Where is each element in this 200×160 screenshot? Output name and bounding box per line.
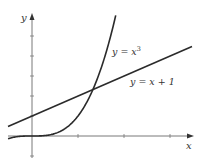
- line-label: y = x + 1: [129, 76, 175, 87]
- cubic-curve: [8, 15, 116, 138]
- y-axis-label: y: [20, 12, 27, 23]
- cubic-label: y = x3: [111, 45, 141, 57]
- x-axis-arrow-icon: [187, 134, 194, 139]
- y-axis-arrow-icon: [30, 13, 35, 20]
- chart: y x y = x3 y = x + 1: [0, 0, 200, 160]
- x-axis-label: x: [186, 140, 192, 151]
